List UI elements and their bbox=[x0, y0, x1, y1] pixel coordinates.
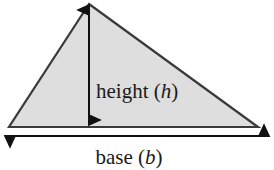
base-label-prefix: base ( bbox=[95, 145, 145, 169]
triangle-shape bbox=[9, 4, 258, 127]
triangle-diagram: height (h) base (b) bbox=[0, 0, 274, 170]
base-label-variable: b bbox=[145, 145, 156, 169]
geometry-figure: height (h) base (b) bbox=[0, 0, 274, 170]
base-label: base (b) bbox=[95, 145, 162, 169]
height-label: height (h) bbox=[96, 79, 178, 103]
height-label-prefix: height ( bbox=[96, 79, 161, 103]
base-label-suffix: ) bbox=[156, 145, 163, 169]
height-label-variable: h bbox=[161, 79, 172, 103]
height-label-suffix: ) bbox=[171, 79, 178, 103]
